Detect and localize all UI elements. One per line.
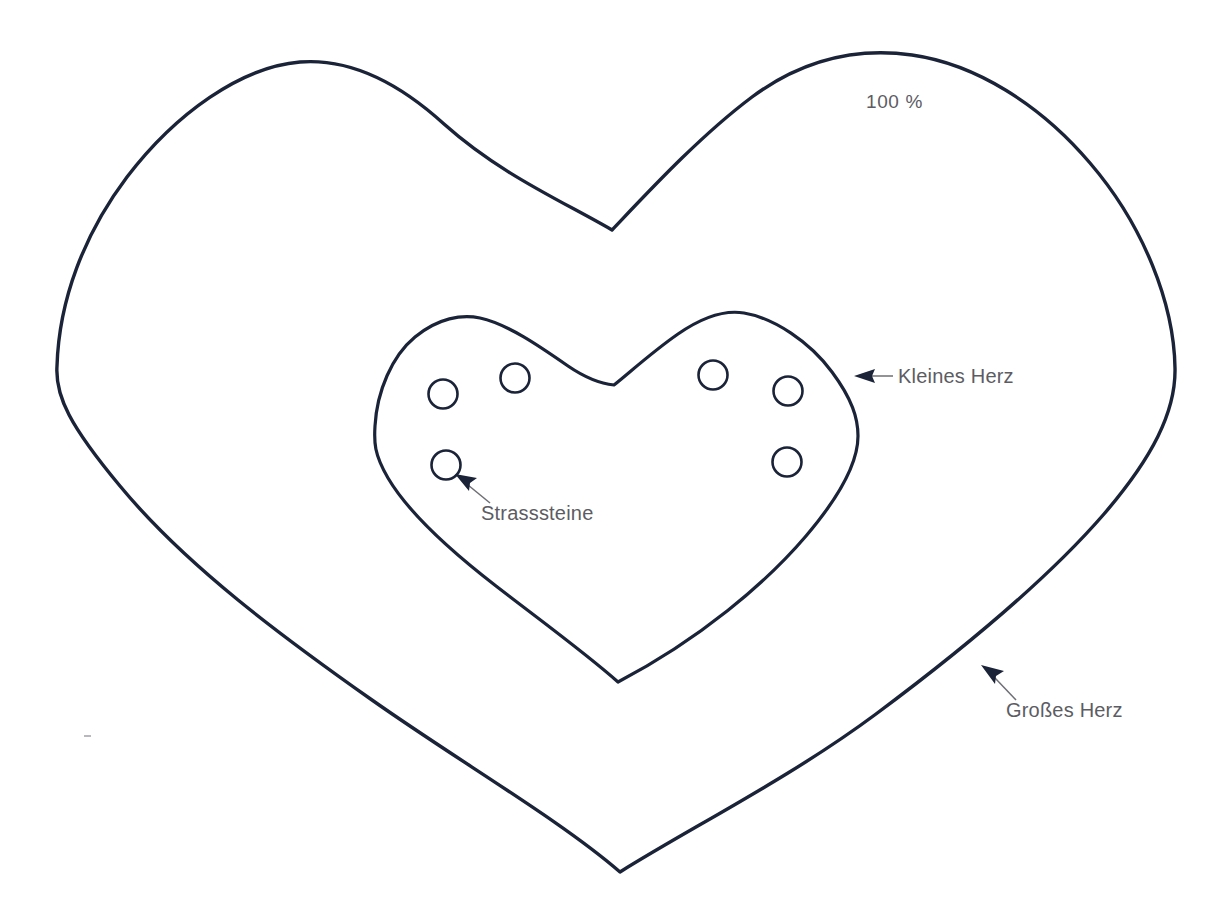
rhinestone-circle bbox=[774, 377, 803, 406]
small-heart-leader bbox=[854, 369, 893, 383]
rhinestone-circle bbox=[699, 361, 728, 390]
rhinestone-circle bbox=[773, 448, 802, 477]
heart-template-drawing bbox=[0, 0, 1209, 905]
large-heart-label: Großes Herz bbox=[1006, 700, 1123, 720]
scan-speck bbox=[84, 735, 91, 737]
rhinestone-circle bbox=[501, 364, 530, 393]
template-sheet: 100 % Kleines Herz Strasssteine Großes H… bbox=[0, 0, 1209, 905]
large-heart-leader bbox=[981, 665, 1016, 700]
small-heart-outline bbox=[375, 312, 858, 682]
rhinestone-circle bbox=[429, 380, 458, 409]
rhinestone-group bbox=[429, 361, 803, 480]
rhinestones-leader bbox=[455, 474, 490, 503]
small-heart-label: Kleines Herz bbox=[898, 366, 1014, 386]
rhinestones-label: Strasssteine bbox=[481, 503, 593, 523]
scale-label: 100 % bbox=[866, 92, 923, 111]
large-heart-outline bbox=[57, 53, 1175, 872]
